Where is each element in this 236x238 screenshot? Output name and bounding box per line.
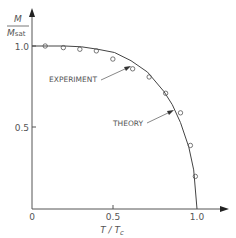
experiment-point (78, 47, 82, 51)
y-tick-0.5: 0.5 (15, 123, 29, 133)
theory-label: THEORY (112, 119, 144, 128)
y-tick-1: 1.0 (15, 42, 30, 52)
experiment-point (178, 111, 182, 115)
experiment-label: EXPERIMENT (49, 75, 97, 84)
x-tick-1: 1.0 (190, 212, 205, 222)
experiment-point (111, 57, 115, 61)
y-axis-arrow-icon (29, 8, 35, 17)
experiment-point (130, 67, 134, 71)
x-tick-0: 0 (29, 212, 35, 222)
x-axis-label: T / Tc (100, 225, 124, 237)
y-label-numerator: M (14, 14, 22, 24)
experiment-markers (43, 44, 198, 179)
experiment-point (147, 75, 151, 79)
y-label-denominator: Msat (7, 28, 26, 38)
x-tick-0.5: 0.5 (106, 212, 120, 222)
experiment-point (188, 143, 192, 147)
magnetization-chart: 1.0 0.5 0 0.5 1.0 T / Tc M Msat EXPERIME… (0, 0, 236, 238)
x-axis-arrow-icon (220, 206, 229, 212)
